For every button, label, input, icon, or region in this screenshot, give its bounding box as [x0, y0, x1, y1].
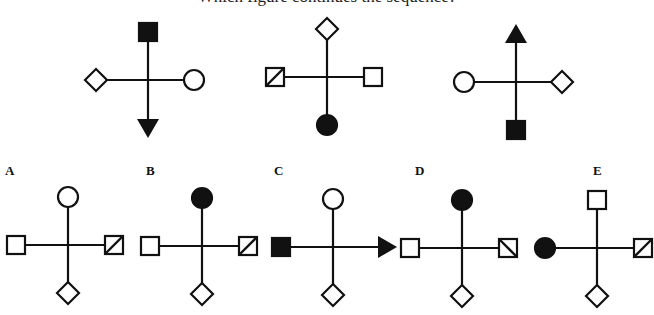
- filled-circle-icon: [452, 190, 472, 210]
- arrow-down-icon: [137, 119, 159, 138]
- answer-option-d[interactable]: [401, 190, 517, 307]
- filled-square-icon: [139, 23, 157, 41]
- hollow-square-icon: [401, 239, 419, 257]
- diamond-icon: [191, 283, 213, 305]
- diamond-icon: [85, 69, 107, 91]
- hollow-circle-icon: [454, 72, 474, 92]
- sequence-figure-2: [266, 18, 382, 135]
- sequence-puzzle-canvas: ABCDE: [0, 0, 654, 315]
- diamond-icon: [322, 284, 344, 306]
- slashed-square-icon: [266, 68, 284, 86]
- backslashed-square-icon: [499, 239, 517, 257]
- answer-option-b[interactable]: [141, 188, 257, 305]
- filled-circle-icon: [535, 238, 555, 258]
- answer-option-a[interactable]: [7, 187, 123, 304]
- filled-circle-icon: [317, 115, 337, 135]
- diamond-icon: [57, 282, 79, 304]
- diamond-icon: [316, 18, 338, 40]
- hollow-square-icon: [141, 237, 159, 255]
- option-label-a: A: [5, 163, 15, 178]
- sequence-figure-1: [85, 23, 204, 138]
- sequence-figure-3: [454, 24, 573, 139]
- hollow-square-icon: [364, 68, 382, 86]
- slashed-square-icon: [105, 236, 123, 254]
- filled-square-icon: [507, 121, 525, 139]
- arrow-up-icon: [505, 24, 527, 43]
- filled-circle-icon: [192, 188, 212, 208]
- hollow-square-icon: [7, 236, 25, 254]
- arrow-right-icon: [378, 236, 397, 258]
- answer-option-c[interactable]: [272, 189, 397, 306]
- hollow-circle-icon: [184, 70, 204, 90]
- hollow-circle-icon: [58, 187, 78, 207]
- option-label-b: B: [146, 163, 155, 178]
- hollow-square-icon: [588, 191, 606, 209]
- diamond-icon: [451, 285, 473, 307]
- slashed-square-icon: [239, 237, 257, 255]
- option-label-d: D: [415, 163, 424, 178]
- slashed-square-icon: [634, 239, 652, 257]
- diamond-icon: [586, 285, 608, 307]
- diamond-icon: [551, 71, 573, 93]
- option-label-e: E: [593, 163, 602, 178]
- option-label-c: C: [274, 163, 283, 178]
- answer-option-e[interactable]: [535, 191, 652, 307]
- filled-square-icon: [272, 238, 290, 256]
- hollow-circle-icon: [323, 189, 343, 209]
